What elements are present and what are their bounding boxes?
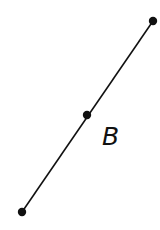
point-label-b: B (102, 122, 119, 151)
line-diagram: B (0, 0, 160, 230)
point-top (149, 17, 157, 25)
point-middle (83, 111, 91, 119)
point-bottom (18, 208, 26, 216)
